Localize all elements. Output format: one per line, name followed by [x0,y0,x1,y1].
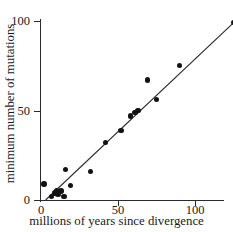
data-point [41,181,46,186]
data-point [88,169,93,174]
plot-area [41,21,195,200]
data-point [61,194,66,199]
x-axis-line [40,200,224,201]
data-point [118,128,123,133]
y-tick-50 [34,111,40,112]
scatter-plot-figure: 050100050100 millions of years since div… [0,0,233,232]
data-point [145,77,150,82]
data-point [58,188,63,193]
y-tick-label-0: 0 [24,194,30,207]
data-point [135,108,140,113]
x-axis-title: millions of years since divergence [0,214,233,229]
y-tick-label-50: 50 [18,104,31,117]
regression-line [41,21,195,200]
y-tick-100 [34,21,40,22]
y-axis-title: minimum number of mutations [3,21,18,187]
y-tick-0 [34,200,40,201]
